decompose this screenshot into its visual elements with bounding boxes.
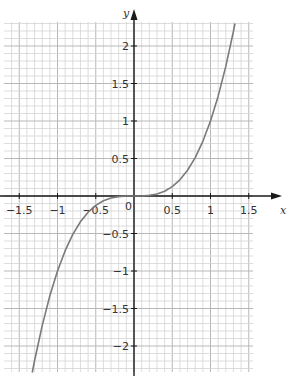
y-tick-label: −1.5 bbox=[102, 303, 129, 316]
y-tick-label: 1.5 bbox=[112, 78, 130, 91]
x-tick-label: −1.5 bbox=[6, 204, 33, 217]
x-axis-label: x bbox=[280, 204, 287, 217]
y-tick-label: 1 bbox=[122, 115, 129, 128]
x-axis-arrow-icon bbox=[271, 193, 282, 200]
y-tick-label: 2 bbox=[122, 40, 129, 53]
x-tick-label: 1.5 bbox=[240, 204, 258, 217]
cubic-function-chart: x y 0 −1.5−1−0.50.511.521.510.5−0.5−1−1.… bbox=[0, 0, 289, 376]
x-tick-label: 1 bbox=[207, 204, 214, 217]
y-tick-label: −2 bbox=[113, 340, 129, 353]
x-tick-label: 0.5 bbox=[164, 204, 182, 217]
y-tick-label: −1 bbox=[113, 265, 129, 278]
y-axis-label: y bbox=[122, 7, 130, 20]
y-tick-label: 0.5 bbox=[112, 153, 130, 166]
origin-label: 0 bbox=[125, 200, 132, 213]
y-axis-arrow-icon bbox=[131, 9, 138, 20]
y-tick-label: −0.5 bbox=[102, 228, 129, 241]
x-tick-label: −1 bbox=[49, 204, 65, 217]
grid bbox=[4, 22, 253, 372]
